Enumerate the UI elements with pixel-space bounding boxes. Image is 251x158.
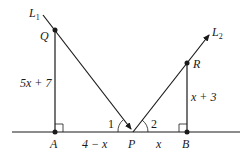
label-point-q: Q bbox=[40, 29, 49, 43]
label-length-rb: x + 3 bbox=[190, 90, 216, 104]
label-point-b: B bbox=[182, 137, 190, 151]
label-l2: L2 bbox=[211, 25, 223, 41]
label-point-p: P bbox=[127, 137, 136, 151]
label-angle-1: 1 bbox=[108, 117, 114, 131]
label-l1: L1 bbox=[28, 6, 40, 22]
label-point-r: R bbox=[192, 57, 201, 71]
point-q bbox=[53, 28, 58, 33]
angle-arc-1 bbox=[118, 120, 123, 132]
label-length-ap: 4 − x bbox=[82, 137, 108, 151]
point-a bbox=[53, 130, 58, 135]
label-point-a: A bbox=[49, 137, 58, 151]
point-r bbox=[185, 61, 190, 66]
label-angle-2: 2 bbox=[151, 117, 157, 131]
angle-arc-2 bbox=[142, 120, 148, 132]
line-l2 bbox=[133, 35, 209, 132]
point-b bbox=[185, 130, 190, 135]
geometry-diagram: L1 L2 Q R A P B 5x + 7 x + 3 4 − x x 1 2 bbox=[0, 0, 251, 158]
label-length-pb: x bbox=[155, 137, 162, 151]
label-length-qa: 5x + 7 bbox=[20, 76, 52, 90]
